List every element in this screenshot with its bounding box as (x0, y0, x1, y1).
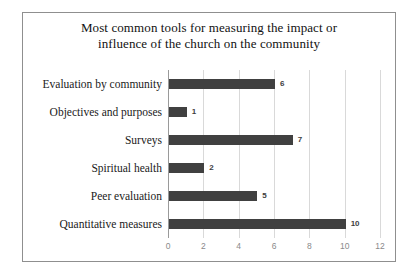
x-tick-label: 8 (307, 241, 312, 251)
chart-frame: Most common tools for measuring the impa… (22, 12, 396, 262)
bar[interactable] (169, 219, 346, 229)
chart-title: Most common tools for measuring the impa… (33, 20, 385, 52)
chart-category-row: Surveys7 (168, 126, 380, 154)
chart-title-line-1: Most common tools for measuring the impa… (33, 20, 385, 36)
x-tick-label: 12 (375, 241, 384, 251)
bar-value-label: 2 (209, 163, 213, 173)
x-tick-label: 4 (236, 241, 241, 251)
chart-title-line-2: influence of the church on the community (33, 36, 385, 52)
category-label: Evaluation by community (12, 70, 162, 98)
category-label: Objectives and purposes (12, 98, 162, 126)
bar-value-label: 1 (192, 107, 196, 117)
x-tick-label: 6 (272, 241, 277, 251)
bar[interactable] (169, 79, 275, 89)
chart-category-row: Peer evaluation5 (168, 182, 380, 210)
x-tick-label: 2 (201, 241, 206, 251)
x-tick-label: 10 (340, 241, 349, 251)
category-label: Surveys (12, 126, 162, 154)
chart-category-row: Objectives and purposes1 (168, 98, 380, 126)
bar-value-label: 7 (298, 135, 302, 145)
chart-category-row: Quantitative measures10 (168, 210, 380, 238)
bar-value-label: 6 (280, 79, 284, 89)
category-label: Quantitative measures (12, 210, 162, 238)
bar-value-label: 5 (262, 191, 266, 201)
chart-category-row: Spiritual health2 (168, 154, 380, 182)
gridline (380, 70, 381, 238)
bar[interactable] (169, 107, 187, 117)
bar[interactable] (169, 191, 257, 201)
plot-area: Evaluation by community6Objectives and p… (168, 70, 380, 238)
category-label: Peer evaluation (12, 182, 162, 210)
chart-category-row: Evaluation by community6 (168, 70, 380, 98)
x-tick-label: 0 (166, 241, 171, 251)
bar-value-label: 10 (351, 219, 360, 229)
bar[interactable] (169, 163, 204, 173)
x-axis: 024681012 (168, 241, 380, 257)
bar[interactable] (169, 135, 293, 145)
category-label: Spiritual health (12, 154, 162, 182)
